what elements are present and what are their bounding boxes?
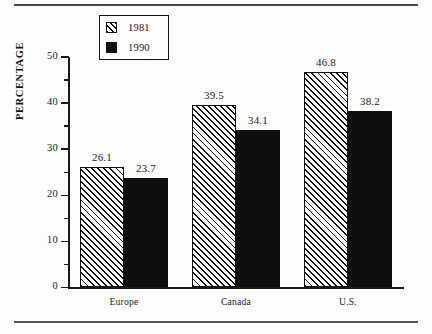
- category-label-us: U.S.: [292, 296, 404, 307]
- bar-europe-1990: [124, 178, 168, 287]
- bar-value-label: 38.2: [340, 95, 400, 107]
- chart-legend: 1981 1990: [99, 15, 169, 60]
- y-tick-major: [61, 148, 69, 149]
- y-tick-major: [61, 195, 69, 196]
- category-label-canada: Canada: [180, 296, 292, 307]
- y-tick-label-text: 40: [47, 96, 58, 107]
- y-tick-label-text: 30: [47, 142, 58, 153]
- y-tick-minor: [64, 264, 70, 265]
- bar-value-label: 39.5: [184, 89, 244, 101]
- y-axis-title: PERCENTAGE: [14, 42, 25, 120]
- legend-swatch-solid-icon: [106, 42, 117, 53]
- legend-label-1981: 1981: [128, 22, 150, 33]
- y-tick-minor: [64, 172, 70, 173]
- y-tick-label-text: 50: [47, 50, 58, 61]
- legend-swatch-hatch-icon: [106, 22, 117, 33]
- y-tick-label-text: 10: [47, 234, 58, 245]
- y-axis-spine: [68, 57, 70, 289]
- y-tick-label-text: 0: [52, 280, 58, 291]
- bar-chart-plot-area: PERCENTAGE 01020304050 26.123.739.534.14…: [0, 0, 432, 334]
- figure-page: PERCENTAGE 01020304050 26.123.739.534.14…: [0, 0, 432, 334]
- x-axis-baseline: [68, 287, 404, 289]
- y-tick-major: [61, 241, 69, 242]
- bar-us-1990: [348, 111, 392, 287]
- bar-canada-1981: [192, 105, 236, 287]
- y-tick-minor: [64, 79, 70, 80]
- legend-item-1990: 1990: [106, 41, 150, 53]
- bar-value-label: 34.1: [228, 114, 288, 126]
- y-tick-minor: [64, 125, 70, 126]
- y-tick-major: [61, 287, 69, 288]
- bar-canada-1990: [236, 130, 280, 287]
- category-label-europe: Europe: [68, 296, 180, 307]
- y-tick-major: [61, 56, 69, 57]
- legend-item-1981: 1981: [106, 21, 150, 33]
- bar-value-label: 46.8: [296, 56, 356, 68]
- y-tick-major: [61, 102, 69, 103]
- y-tick-minor: [64, 218, 70, 219]
- bar-europe-1981: [80, 167, 124, 287]
- legend-label-1990: 1990: [128, 42, 150, 53]
- bar-value-label: 23.7: [116, 162, 176, 174]
- y-tick-label-text: 20: [47, 188, 58, 199]
